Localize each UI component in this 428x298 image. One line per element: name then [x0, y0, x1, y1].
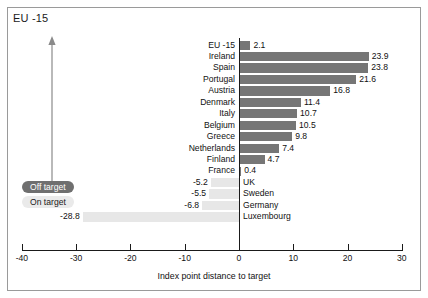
category-label: UK — [243, 177, 255, 188]
x-tick-label: -20 — [124, 253, 136, 263]
bar-row: Austria16.8 — [0, 85, 428, 96]
bar-netherlands — [239, 144, 279, 153]
category-label: Sweden — [243, 188, 274, 199]
value-label: -5.2 — [193, 177, 208, 188]
legend-on-target[interactable]: On target — [22, 196, 74, 208]
category-label: Luxembourg — [243, 211, 291, 222]
bar-row: Portugal21.6 — [0, 74, 428, 85]
category-label: Italy — [219, 108, 235, 119]
bar-austria — [239, 86, 330, 95]
bar-row: Greece9.8 — [0, 131, 428, 142]
value-label: 4.7 — [268, 154, 280, 165]
x-tick — [130, 244, 131, 251]
x-tick-label: 20 — [343, 253, 353, 263]
bar-row: Belgium10.5 — [0, 120, 428, 131]
x-axis-line — [22, 250, 402, 251]
x-tick — [22, 244, 23, 251]
value-label: 10.7 — [300, 108, 317, 119]
value-label: 2.1 — [253, 40, 265, 51]
bar-row: Denmark11.4 — [0, 97, 428, 108]
value-label: -6.8 — [184, 200, 199, 211]
bar-row: France0.4 — [0, 165, 428, 176]
category-label: Denmark — [200, 97, 235, 108]
bar-row: Italy10.7 — [0, 108, 428, 119]
x-tick-label: -40 — [16, 253, 28, 263]
value-label: 0.4 — [244, 165, 256, 176]
value-label: 11.4 — [304, 97, 320, 108]
value-label: 10.5 — [299, 120, 316, 131]
bar-italy — [239, 109, 297, 118]
bar-denmark — [239, 98, 301, 107]
x-tick — [293, 244, 294, 251]
value-label: 16.8 — [333, 85, 350, 96]
x-tick-label: -10 — [178, 253, 190, 263]
x-tick — [185, 244, 186, 251]
x-tick — [402, 244, 403, 251]
value-label: 21.6 — [359, 74, 376, 85]
value-label: 7.4 — [282, 143, 294, 154]
category-label: Netherlands — [189, 143, 235, 154]
value-label: 9.8 — [295, 131, 307, 142]
zero-axis-line — [239, 38, 240, 250]
value-label: 23.9 — [372, 51, 389, 62]
bar-luxembourg — [83, 212, 239, 221]
category-label: Spain — [213, 62, 235, 73]
bar-row: Spain23.8 — [0, 62, 428, 73]
bar-spain — [239, 63, 368, 72]
bar-row: EU -152.1 — [0, 40, 428, 51]
value-label: -5.5 — [191, 188, 206, 199]
x-tick-label: -30 — [70, 253, 82, 263]
x-tick-label: 30 — [397, 253, 407, 263]
category-label: Greece — [207, 131, 235, 142]
category-label: Belgium — [204, 120, 235, 131]
bar-eu-15 — [239, 41, 250, 50]
category-label: Finland — [207, 154, 235, 165]
category-label: Germany — [243, 200, 278, 211]
bar-ireland — [239, 52, 369, 61]
bar-germany — [202, 201, 239, 210]
x-tick-label: 10 — [289, 253, 299, 263]
bar-portugal — [239, 75, 356, 84]
category-label: Austria — [208, 85, 235, 96]
bar-sweden — [209, 189, 239, 198]
x-tick — [348, 244, 349, 251]
value-label: 23.8 — [371, 62, 388, 73]
legend-off-target[interactable]: Off target — [22, 181, 74, 193]
category-label: Ireland — [209, 51, 235, 62]
category-label: Portugal — [203, 74, 235, 85]
bar-row: Luxembourg-28.8 — [0, 211, 428, 222]
x-tick-label: 0 — [237, 253, 242, 263]
bar-row: Netherlands7.4 — [0, 143, 428, 154]
bar-uk — [211, 178, 239, 187]
category-label: EU -15 — [208, 40, 235, 51]
x-tick — [76, 244, 77, 251]
bar-belgium — [239, 121, 296, 130]
bar-greece — [239, 132, 292, 141]
x-axis-title: Index point distance to target — [0, 271, 428, 281]
x-tick — [239, 244, 240, 251]
bar-finland — [239, 155, 265, 164]
bar-chart-plot-area: EU -152.1Ireland23.9Spain23.8Portugal21.… — [0, 0, 428, 298]
bar-row: Finland4.7 — [0, 154, 428, 165]
value-label: -28.8 — [60, 211, 80, 222]
bar-row: Ireland23.9 — [0, 51, 428, 62]
category-label: France — [208, 165, 235, 176]
